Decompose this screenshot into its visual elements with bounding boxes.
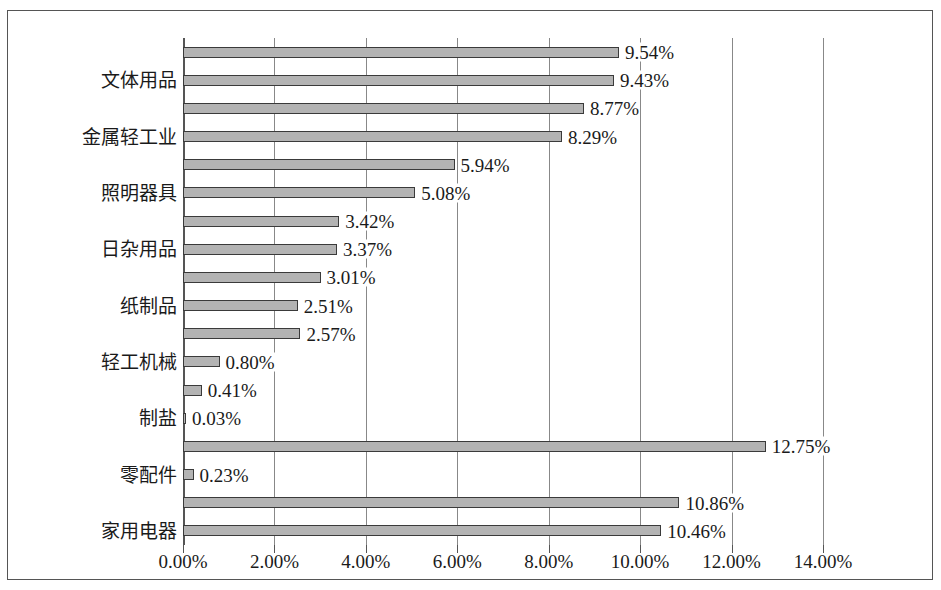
x-axis-tick-mark (640, 545, 641, 553)
x-axis-tick-label: 8.00% (524, 552, 573, 571)
x-axis-tick-mark (732, 545, 733, 553)
x-axis-tick-mark (274, 545, 275, 553)
category-label: 家用电器 (101, 521, 177, 540)
bar-value-label: 5.08% (420, 183, 471, 202)
bar-row: 3.01% (183, 272, 823, 283)
bar-row: 0.03% (183, 413, 823, 424)
bar[interactable] (183, 244, 337, 255)
bar-row: 9.54% (183, 47, 823, 58)
bar-value-label: 10.86% (684, 493, 745, 512)
bar-value-label: 3.42% (344, 212, 395, 231)
bar-row: 10.86% (183, 497, 823, 508)
bar-row: 5.94% (183, 159, 823, 170)
category-label: 轻工机械 (101, 352, 177, 371)
bar[interactable] (183, 497, 679, 508)
bar[interactable] (183, 216, 339, 227)
category-label: 纸制品 (120, 296, 177, 315)
bar[interactable] (183, 328, 300, 339)
chart-page: 文体用品金属轻工业照明器具日杂用品纸制品轻工机械制盐零配件家用电器 9.54%9… (0, 0, 941, 590)
bar-row: 2.51% (183, 300, 823, 311)
bar[interactable] (183, 441, 766, 452)
bar-value-label: 3.37% (342, 240, 393, 259)
x-axis-tick-label: 0.00% (158, 552, 207, 571)
bar-value-label: 9.43% (619, 71, 670, 90)
bar-value-label: 3.01% (326, 268, 377, 287)
bar[interactable] (183, 103, 584, 114)
bar-row: 2.57% (183, 328, 823, 339)
bar-value-label: 8.77% (589, 99, 640, 118)
bar-row: 5.08% (183, 187, 823, 198)
bar-value-label: 12.75% (771, 437, 832, 456)
x-axis-tick-label: 6.00% (433, 552, 482, 571)
bar-value-label: 10.46% (666, 521, 727, 540)
bar-row: 8.77% (183, 103, 823, 114)
bar-value-label: 9.54% (624, 43, 675, 62)
bar-row: 0.23% (183, 469, 823, 480)
bar[interactable] (183, 159, 455, 170)
bar[interactable] (183, 300, 298, 311)
bar-value-label: 2.57% (305, 324, 356, 343)
bar[interactable] (183, 187, 415, 198)
x-axis-tick-label: 12.00% (702, 552, 761, 571)
bar-row: 3.37% (183, 244, 823, 255)
x-axis-tick-label: 14.00% (794, 552, 853, 571)
bar[interactable] (183, 47, 619, 58)
gridline (823, 38, 824, 545)
bar-row: 0.80% (183, 356, 823, 367)
category-label: 文体用品 (101, 71, 177, 90)
bar-row: 9.43% (183, 75, 823, 86)
category-label: 金属轻工业 (82, 127, 177, 146)
bar[interactable] (183, 131, 562, 142)
x-axis-tick-label: 2.00% (250, 552, 299, 571)
bar-value-label: 8.29% (567, 127, 618, 146)
category-label: 制盐 (139, 409, 177, 428)
x-axis-tick-mark (823, 545, 824, 553)
bar-value-label: 0.23% (199, 465, 250, 484)
x-axis-tick-mark (457, 545, 458, 553)
bar-value-label: 0.41% (207, 381, 258, 400)
bar[interactable] (183, 356, 220, 367)
bar-row: 8.29% (183, 131, 823, 142)
plot-area: 9.54%9.43%8.77%8.29%5.94%5.08%3.42%3.37%… (183, 38, 823, 545)
bar[interactable] (183, 525, 661, 536)
bar-row: 12.75% (183, 441, 823, 452)
category-axis-labels: 文体用品金属轻工业照明器具日杂用品纸制品轻工机械制盐零配件家用电器 (0, 38, 177, 545)
x-axis-tick-label: 10.00% (611, 552, 670, 571)
x-axis-tick-label: 4.00% (341, 552, 390, 571)
category-label: 日杂用品 (101, 240, 177, 259)
bar[interactable] (183, 469, 194, 480)
category-label: 零配件 (120, 465, 177, 484)
category-label: 照明器具 (101, 183, 177, 202)
x-axis-tick-labels: 0.00%2.00%4.00%6.00%8.00%10.00%12.00%14.… (183, 552, 823, 582)
x-axis-tick-mark (366, 545, 367, 553)
bar[interactable] (183, 413, 186, 424)
bar-value-label: 5.94% (460, 155, 511, 174)
x-axis-tick-mark (549, 545, 550, 553)
bar-value-label: 0.03% (191, 409, 242, 428)
bar[interactable] (183, 272, 321, 283)
bar-value-label: 2.51% (303, 296, 354, 315)
x-axis-tick-mark (183, 545, 184, 553)
bar-row: 10.46% (183, 525, 823, 536)
bar[interactable] (183, 385, 202, 396)
bar-row: 3.42% (183, 216, 823, 227)
bar-value-label: 0.80% (225, 352, 276, 371)
bar-row: 0.41% (183, 385, 823, 396)
bar[interactable] (183, 75, 614, 86)
